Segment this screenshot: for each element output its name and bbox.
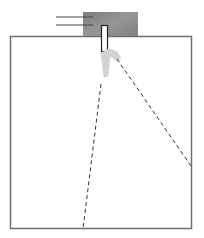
container-box [11, 37, 192, 229]
diagram-svg [0, 0, 204, 238]
tube [102, 26, 108, 52]
clip-deflector [101, 49, 121, 77]
diagram-canvas [0, 0, 204, 238]
left-beam-dashed-line [83, 84, 101, 229]
right-beam-dashed-line [117, 59, 191, 166]
device-block [83, 12, 138, 36]
